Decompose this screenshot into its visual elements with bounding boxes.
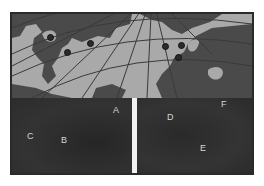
- photo-panels: A C B F D E: [12, 98, 252, 173]
- map-marker: [162, 43, 169, 50]
- figure-frame: A C B F D E: [10, 12, 254, 175]
- photo-panel-right: F D E: [137, 98, 252, 173]
- panel-label-c: C: [27, 132, 34, 141]
- map-marker: [175, 54, 182, 61]
- map-panel: [12, 14, 252, 98]
- panel-label-d: D: [167, 113, 174, 122]
- photo-panel-left: A C B: [12, 98, 132, 173]
- panel-label-a: A: [113, 106, 119, 115]
- map-marker: [87, 40, 94, 47]
- map-marker: [47, 34, 54, 41]
- map-marker: [178, 42, 185, 49]
- map-marker: [64, 49, 71, 56]
- panel-label-f: F: [221, 100, 227, 109]
- panel-label-e: E: [200, 144, 206, 153]
- panel-label-b: B: [61, 136, 67, 145]
- map-graphic: [12, 14, 252, 98]
